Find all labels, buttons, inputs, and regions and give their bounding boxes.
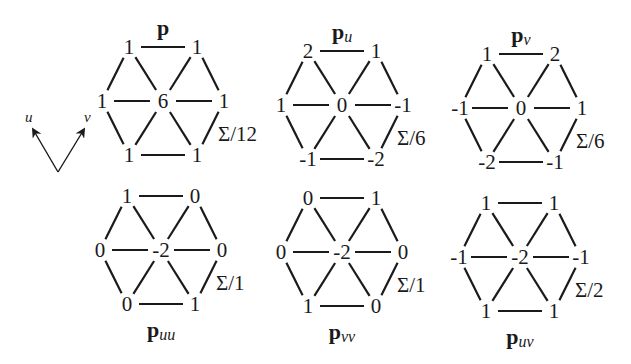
node-center: -2 [511, 245, 529, 269]
stencil-edge [349, 208, 370, 241]
node-right: -1 [394, 93, 412, 117]
stencil-edge [465, 119, 481, 152]
node-top-left: 1 [481, 191, 492, 215]
node-right: 0 [398, 240, 409, 264]
node-top-left: 0 [303, 186, 314, 210]
node-left: 1 [276, 93, 287, 117]
node-bottom-left: 1 [481, 299, 492, 323]
stencil-edge [381, 263, 397, 296]
stencil-edge [135, 112, 156, 145]
stencil-edge [105, 207, 121, 240]
uv-axes: u v [25, 109, 91, 172]
node-left: 1 [97, 89, 108, 113]
stencil-title: puv [506, 324, 534, 350]
stencil-edge [107, 58, 123, 91]
node-top-right: 1 [192, 35, 203, 59]
u-axis-label: u [25, 109, 33, 125]
node-center: 0 [516, 96, 527, 120]
node-center: 0 [337, 93, 348, 117]
title-subscript: u [344, 28, 352, 45]
u-axis-arrow [34, 131, 58, 172]
node-right: -1 [572, 245, 590, 269]
node-center: -2 [333, 240, 351, 264]
stencil-pu: 2110-1-1-2puΣ/6 [276, 19, 426, 171]
stencil-edge [493, 64, 514, 97]
title-main: p [147, 317, 159, 342]
node-top-right: 1 [371, 39, 382, 63]
stencil-edge [314, 263, 335, 296]
stencil-title: pvv [329, 319, 356, 345]
normalizer-label: Σ/6 [397, 126, 426, 150]
node-bottom-left: 1 [124, 143, 135, 167]
node-top-left: 2 [303, 39, 314, 63]
stencil-edge [202, 112, 218, 145]
node-bottom-right: -2 [367, 147, 385, 171]
node-right: 1 [577, 96, 588, 120]
node-left: -1 [450, 245, 468, 269]
stencil-edge [381, 209, 397, 242]
stencil-edge [560, 65, 576, 98]
stencil-edge [286, 62, 302, 95]
stencil-edge [464, 214, 480, 247]
v-axis-arrow [58, 131, 83, 172]
stencil-p: 1116111pΣ/12 [97, 15, 257, 167]
stencil-puv: 11-1-2-111puvΣ/2 [450, 191, 603, 350]
stencil-edge [133, 261, 154, 294]
stencil-edge [168, 261, 189, 294]
stencil-edge [107, 112, 123, 145]
node-top-left: 1 [124, 35, 135, 59]
node-right: 0 [217, 238, 228, 262]
node-top-left: 1 [482, 42, 493, 66]
node-center: -2 [152, 238, 170, 262]
stencil-edge [528, 64, 549, 97]
stencil-pvv: 010-2010pvvΣ/1 [276, 186, 426, 345]
stencil-edge [492, 268, 513, 301]
stencil-edge [528, 119, 549, 152]
stencil-edge [559, 214, 575, 247]
stencil-edge [465, 65, 481, 98]
node-left: 0 [276, 240, 287, 264]
stencil-title: p [157, 15, 169, 40]
node-bottom-left: 1 [303, 294, 314, 318]
node-top-left: 1 [122, 184, 133, 208]
v-axis-label: v [84, 109, 91, 125]
stencil-edge [381, 116, 397, 149]
normalizer-label: Σ/1 [397, 273, 426, 297]
stencil-edge [381, 62, 397, 95]
stencil-edge [314, 208, 335, 241]
title-main: p [329, 319, 341, 344]
stencil-edge [135, 57, 156, 90]
stencil-pv: 12-101-2-1pvΣ/6 [451, 22, 604, 174]
stencil-edge [560, 119, 576, 152]
node-top-right: 2 [550, 42, 561, 66]
node-center: 6 [158, 89, 169, 113]
stencil-edge [170, 112, 191, 145]
node-bottom-right: 1 [192, 143, 203, 167]
stencil-edge [133, 206, 154, 239]
title-subscript: v [524, 31, 532, 48]
title-main: p [506, 324, 518, 349]
node-right: 1 [219, 89, 230, 113]
stencil-edge [349, 263, 370, 296]
title-main: p [332, 19, 344, 44]
title-subscript: uu [159, 326, 175, 343]
stencil-edge [202, 58, 218, 91]
node-left: 0 [95, 238, 106, 262]
node-top-right: 0 [190, 184, 201, 208]
stencil-edge [286, 263, 302, 296]
stencil-edge [200, 261, 216, 294]
normalizer-label: Σ/1 [216, 271, 245, 295]
stencil-edge [527, 268, 548, 301]
stencil-edge [492, 213, 513, 246]
normalizer-label: Σ/2 [575, 278, 604, 302]
node-bottom-right: -1 [546, 150, 564, 174]
stencil-edge [105, 261, 121, 294]
stencil-edge [464, 268, 480, 301]
stencil-edge [493, 119, 514, 152]
title-subscript: vv [341, 328, 356, 345]
stencil-edge [314, 61, 335, 94]
node-bottom-left: -2 [478, 150, 496, 174]
stencil-edge [286, 116, 302, 149]
stencil-title: pv [511, 22, 531, 48]
stencil-edge [527, 213, 548, 246]
